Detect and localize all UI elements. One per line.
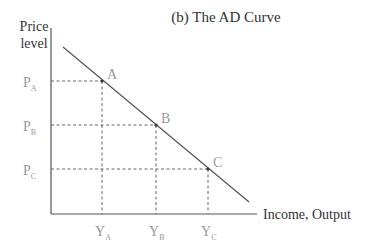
svg-text:YB: YB — [149, 224, 164, 242]
svg-text:PC: PC — [23, 163, 36, 181]
svg-text:YA: YA — [95, 224, 111, 242]
svg-text:YC: YC — [201, 224, 216, 242]
svg-text:PA: PA — [23, 75, 37, 93]
x-tick-labels: YA YB YC — [95, 224, 216, 242]
point-c-marker — [206, 167, 209, 170]
svg-text:PB: PB — [23, 119, 36, 137]
x-axis-label: Income, Output — [263, 207, 351, 222]
chart-title: (b) The AD Curve — [171, 9, 281, 26]
point-a-label: A — [107, 67, 118, 82]
ad-curve-chart: (b) The AD Curve Price level Income, Out… — [0, 0, 369, 249]
point-b-label: B — [161, 111, 170, 126]
point-a-marker — [100, 79, 103, 82]
point-c-label: C — [213, 155, 222, 170]
y-axis-label-line2: level — [20, 36, 47, 51]
y-axis-label-line1: Price — [20, 19, 49, 34]
y-tick-labels: PA PB PC — [23, 75, 37, 181]
point-b-marker — [154, 123, 157, 126]
